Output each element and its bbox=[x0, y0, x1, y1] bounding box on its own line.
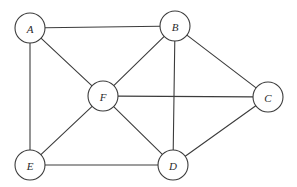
graph-node-label-e: E bbox=[26, 160, 34, 172]
graph-node-label-b: B bbox=[172, 21, 179, 33]
graph-diagram: ABCDEF bbox=[0, 0, 297, 187]
graph-edge-b-c bbox=[187, 35, 256, 88]
graph-edge-e-f bbox=[41, 106, 92, 154]
graph-node-label-c: C bbox=[264, 92, 272, 104]
node-layer: ABCDEF bbox=[15, 11, 283, 180]
graph-node-a[interactable]: A bbox=[15, 13, 45, 43]
graph-node-f[interactable]: F bbox=[88, 81, 118, 111]
graph-node-label-f: F bbox=[99, 91, 107, 103]
graph-node-d[interactable]: D bbox=[158, 150, 188, 180]
graph-edge-c-f bbox=[118, 96, 253, 97]
graph-edge-a-b bbox=[45, 26, 160, 28]
graph-node-b[interactable]: B bbox=[160, 11, 190, 41]
edge-layer bbox=[30, 26, 256, 165]
graph-canvas: ABCDEF bbox=[0, 0, 297, 187]
graph-node-label-d: D bbox=[168, 160, 177, 172]
graph-edge-b-f bbox=[114, 36, 165, 85]
graph-edge-a-f bbox=[41, 38, 92, 86]
graph-edge-c-d bbox=[185, 106, 256, 157]
graph-node-label-a: A bbox=[26, 23, 34, 35]
graph-edge-b-d bbox=[173, 41, 175, 150]
graph-node-c[interactable]: C bbox=[253, 82, 283, 112]
graph-edge-d-f bbox=[114, 107, 163, 155]
graph-node-e[interactable]: E bbox=[15, 150, 45, 180]
